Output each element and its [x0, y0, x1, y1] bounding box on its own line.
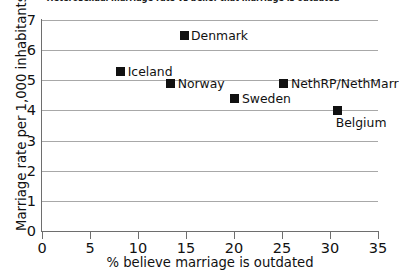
- data-point-label: Norway: [178, 78, 225, 90]
- x-tick-label: 35: [363, 241, 393, 256]
- x-tick: [138, 232, 139, 239]
- gridline-y: [42, 110, 378, 111]
- chart-title: Heterosexual marriage rate vs belief tha…: [0, 0, 386, 3]
- x-tick: [234, 232, 235, 239]
- x-axis-line: [41, 231, 379, 232]
- data-point-marker[interactable]: [333, 106, 342, 115]
- y-tick-label: 0: [8, 224, 36, 239]
- data-point-marker[interactable]: [166, 79, 175, 88]
- data-point-label: Iceland: [128, 66, 173, 78]
- gridline-y: [42, 171, 378, 172]
- x-tick-label: 0: [27, 241, 57, 256]
- x-tick-label: 30: [315, 241, 345, 256]
- y-tick-label: 5: [8, 73, 36, 88]
- data-point-marker[interactable]: [279, 79, 288, 88]
- data-point-label: Belgium: [336, 117, 387, 129]
- y-tick-label: 4: [8, 103, 36, 118]
- x-tick: [330, 232, 331, 239]
- y-tick-label: 7: [8, 13, 36, 28]
- x-tick-label: 5: [75, 241, 105, 256]
- data-point-marker[interactable]: [230, 94, 239, 103]
- x-tick: [42, 232, 43, 239]
- y-axis-line: [41, 19, 42, 232]
- data-point-label: Denmark: [191, 30, 248, 42]
- x-tick-label: 15: [171, 241, 201, 256]
- gridline-y: [42, 50, 378, 51]
- data-point-label: NethRP/NethMarr: [291, 78, 399, 90]
- data-point-marker[interactable]: [116, 67, 125, 76]
- data-point-label: Sweden: [242, 93, 291, 105]
- x-tick-label: 20: [219, 241, 249, 256]
- y-tick-label: 3: [8, 134, 36, 149]
- data-point-marker[interactable]: [180, 31, 189, 40]
- x-tick: [186, 232, 187, 239]
- gridline-y: [42, 201, 378, 202]
- y-tick-label: 2: [8, 164, 36, 179]
- x-tick: [90, 232, 91, 239]
- plot-area: [42, 20, 378, 231]
- gridline-y: [42, 20, 378, 21]
- x-axis-title: % believe marriage is outdated: [42, 256, 378, 269]
- x-tick: [282, 232, 283, 239]
- x-tick-label: 10: [123, 241, 153, 256]
- x-tick-label: 25: [267, 241, 297, 256]
- gridline-y: [42, 141, 378, 142]
- x-tick: [378, 232, 379, 239]
- y-tick-label: 6: [8, 43, 36, 58]
- y-tick-label: 1: [8, 194, 36, 209]
